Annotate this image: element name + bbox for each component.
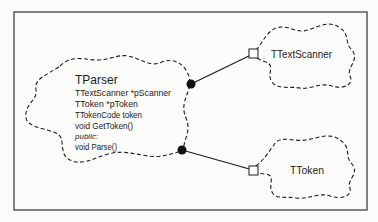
association-line-textscanner xyxy=(191,54,253,84)
has-dot-token xyxy=(178,146,187,155)
diagram-frame xyxy=(14,12,367,210)
tparser-visibility-label: public: xyxy=(74,132,98,141)
class-diagram: TParser TTextScanner *pScanner TToken *p… xyxy=(0,0,378,222)
association-line-token xyxy=(182,150,253,170)
ttextscanner-class-name: TTextScanner xyxy=(271,48,332,60)
tparser-member: TTextScanner *pScanner xyxy=(75,88,171,98)
has-dot-textscanner xyxy=(187,80,196,89)
tparser-member: TToken *pToken xyxy=(75,99,138,109)
adornment-square-textscanner xyxy=(249,49,258,58)
ttoken-class-name: TToken xyxy=(290,164,324,176)
tparser-class-name: TParser xyxy=(75,73,118,87)
tparser-public-member: void Parse() xyxy=(75,142,117,152)
tparser-member: TTokenCode token xyxy=(75,110,142,120)
adornment-square-token xyxy=(249,166,258,175)
tparser-member: void GetToken() xyxy=(75,121,133,131)
